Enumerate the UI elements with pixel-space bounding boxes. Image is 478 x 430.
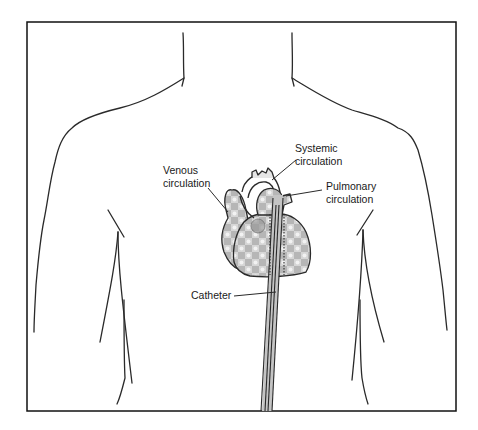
right-arm-line-3 [360, 300, 368, 404]
venous-circulation-label: Venous circulation [163, 164, 210, 189]
left-arm-line-3 [117, 300, 125, 404]
torso-heart-diagram [0, 0, 478, 430]
systemic-leader [272, 160, 296, 180]
arch-vessels [252, 168, 274, 178]
heart [222, 168, 311, 277]
systemic-circulation-label: Systemic circulation [295, 142, 342, 167]
pulmonary-circulation-label: Pulmonary circulation [326, 180, 376, 205]
right-arm-inner-outline [357, 210, 373, 235]
pulmonary-leader [286, 190, 322, 196]
left-arm-inner-outline [108, 210, 124, 237]
right-arm-line-1 [363, 230, 384, 342]
left-arm-line-1 [100, 232, 118, 342]
catheter-label: Catheter [191, 289, 231, 302]
valve-region [251, 219, 265, 233]
